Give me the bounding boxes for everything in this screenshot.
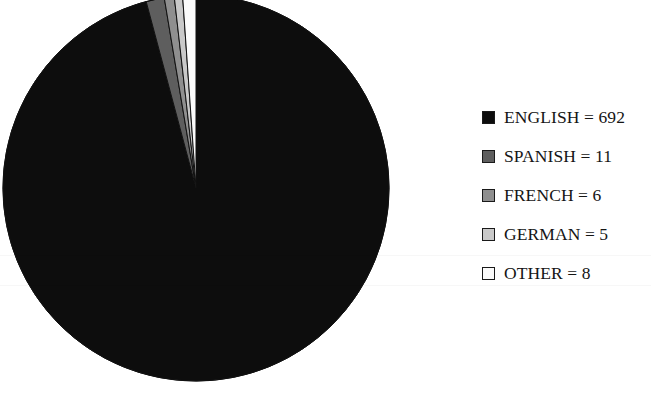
legend-swatch-french — [482, 189, 495, 202]
legend-label-english: ENGLISH = 692 — [504, 109, 625, 127]
legend-item-other[interactable]: OTHER = 8 — [482, 254, 648, 293]
chart-legend: ENGLISH = 692 SPANISH = 11 FRENCH = 6 GE… — [482, 98, 648, 293]
legend-swatch-other — [482, 267, 495, 280]
legend-swatch-spanish — [482, 150, 495, 163]
pie-chart-figure: ENGLISH = 692 SPANISH = 11 FRENCH = 6 GE… — [0, 0, 651, 399]
pie-svg — [0, 0, 400, 399]
legend-label-french: FRENCH = 6 — [504, 187, 601, 205]
legend-item-english[interactable]: ENGLISH = 692 — [482, 98, 648, 137]
legend-swatch-german — [482, 228, 495, 241]
pie-plot-area — [0, 0, 400, 399]
legend-item-spanish[interactable]: SPANISH = 11 — [482, 137, 648, 176]
legend-item-french[interactable]: FRENCH = 6 — [482, 176, 648, 215]
legend-label-other: OTHER = 8 — [504, 265, 591, 283]
pie-slice-group — [3, 0, 389, 381]
legend-label-spanish: SPANISH = 11 — [504, 148, 612, 166]
legend-swatch-english — [482, 111, 495, 124]
legend-label-german: GERMAN = 5 — [504, 226, 608, 244]
legend-item-german[interactable]: GERMAN = 5 — [482, 215, 648, 254]
